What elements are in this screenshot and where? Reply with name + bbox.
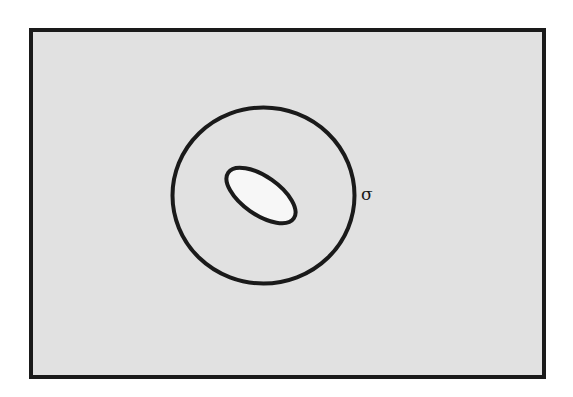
sigma-label: σ xyxy=(361,184,373,204)
venn-diagram: σ xyxy=(0,0,573,397)
